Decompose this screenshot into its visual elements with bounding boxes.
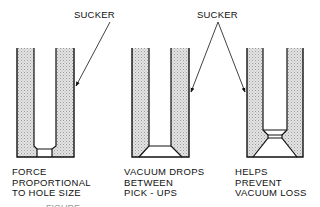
arrow-middle-sucker — [191, 22, 218, 92]
sucker-label-right: SUCKER — [197, 10, 238, 20]
caption-open-flare: VACUUM DROPS BETWEEN PICK - UPS — [124, 167, 205, 199]
sucker-label-left: SUCKER — [74, 10, 115, 20]
caption-line: TO HOLE SIZE — [12, 188, 91, 199]
figure-open-flare — [132, 48, 189, 157]
caption-necked-flare: HELPS PREVENT VACUUM LOSS — [235, 167, 307, 199]
figure-necked-flare — [247, 48, 303, 157]
caption-line: PICK - UPS — [124, 188, 205, 199]
caption-line: HELPS — [235, 167, 307, 178]
caption-line: VACUUM LOSS — [235, 188, 307, 199]
arrow-right-sucker — [218, 22, 245, 92]
leader-arrows — [76, 22, 245, 92]
caption-straight-hole: FORCE PROPORTIONAL TO HOLE SIZE — [12, 167, 91, 199]
figure-straight-hole — [17, 48, 74, 157]
caption-line: FORCE — [12, 167, 91, 178]
figure-caption-cut: FIGURE — [46, 203, 80, 207]
caption-line: VACUUM DROPS — [124, 167, 205, 178]
arrow-left-sucker — [76, 22, 110, 86]
